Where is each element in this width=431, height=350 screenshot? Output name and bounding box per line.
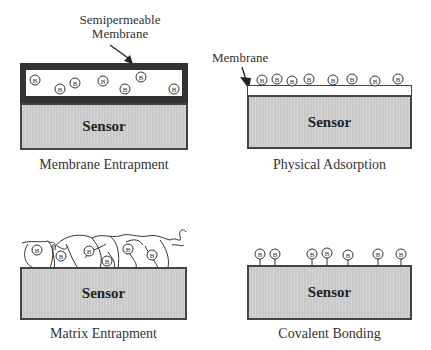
svg-text:B: B [310,251,315,259]
svg-text:B: B [273,251,278,259]
svg-text:B: B [376,251,381,259]
svg-text:B: B [399,251,404,259]
svg-text:B: B [258,251,263,259]
sensor-block: Sensor [247,265,412,320]
svg-text:B: B [325,250,330,258]
caption-covalent-bonding: Covalent Bonding [247,326,412,342]
sensor-label: Sensor [308,284,351,301]
svg-text:B: B [346,252,351,260]
